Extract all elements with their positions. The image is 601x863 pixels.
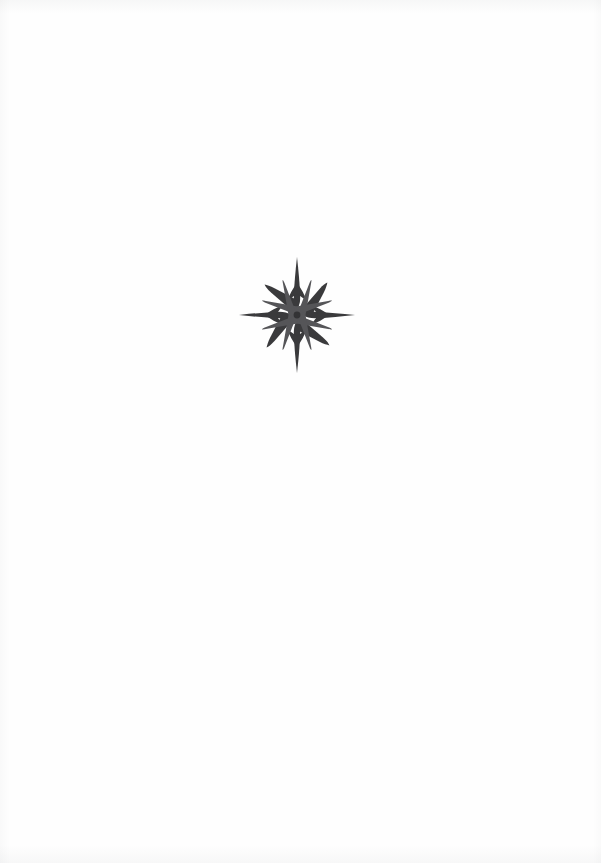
star-ornament-icon xyxy=(235,252,359,386)
ornament-container xyxy=(0,236,601,402)
ornament-caption xyxy=(235,386,236,387)
page-body-text xyxy=(0,0,1,1)
ornament-hub xyxy=(294,312,301,319)
scanned-page xyxy=(0,0,601,863)
paper-grain-texture xyxy=(0,0,601,863)
star-ornament xyxy=(235,252,359,386)
page-number xyxy=(0,0,1,1)
